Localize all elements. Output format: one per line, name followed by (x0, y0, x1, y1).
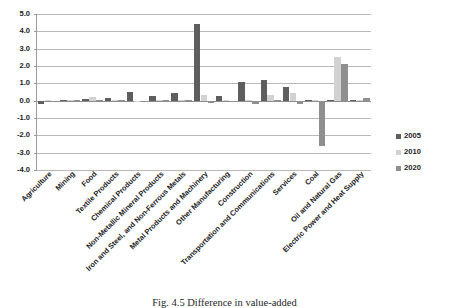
x-axis-label: Mining (54, 170, 76, 192)
legend-item: 2020 (396, 160, 448, 176)
bar (127, 92, 133, 101)
bar-group (59, 14, 81, 170)
bar (357, 100, 363, 101)
bar-group (104, 14, 126, 170)
chart-legend: 200520102020 (396, 128, 448, 176)
bar (341, 64, 347, 100)
bar-group (171, 14, 193, 170)
bar (163, 100, 169, 101)
bar (283, 87, 289, 100)
bar (156, 100, 162, 101)
bar-group (193, 14, 215, 170)
bar (89, 97, 95, 101)
legend-swatch-icon (396, 150, 401, 155)
bar (201, 95, 207, 101)
bar (290, 93, 296, 100)
legend-item: 2010 (396, 144, 448, 160)
bar (230, 101, 236, 102)
bar (38, 101, 44, 105)
bar-series-layer (37, 14, 371, 170)
bar (208, 101, 214, 103)
bar (334, 57, 340, 101)
bar (118, 100, 124, 101)
bar (319, 101, 325, 146)
bar-group (82, 14, 104, 170)
bar (297, 101, 303, 104)
bar (105, 98, 111, 101)
legend-label: 2020 (404, 164, 421, 172)
bar (261, 80, 267, 101)
legend-item: 2005 (396, 128, 448, 144)
bar (52, 101, 58, 102)
bar (216, 96, 222, 101)
legend-label: 2005 (404, 132, 421, 140)
bar-group (148, 14, 170, 170)
bar (60, 100, 66, 101)
bar (171, 93, 177, 101)
y-tick-label: 0.0 (6, 97, 30, 105)
bar (274, 100, 280, 101)
bar-group (260, 14, 282, 170)
bar (82, 99, 88, 100)
y-tick-label: -3.0 (6, 149, 30, 157)
bar-group (304, 14, 326, 170)
y-tick-label: 4.0 (6, 27, 30, 35)
bar-group (215, 14, 237, 170)
legend-swatch-icon (396, 134, 401, 139)
bar (185, 100, 191, 101)
plot-area (36, 14, 371, 170)
y-tick-label: -1.0 (6, 114, 30, 122)
bar (350, 100, 356, 101)
x-axis-label: Agriculture (20, 170, 54, 204)
bar (178, 100, 184, 101)
bar (223, 100, 229, 101)
bar (141, 101, 147, 102)
bar-group (282, 14, 304, 170)
bar (305, 100, 311, 101)
bar (327, 100, 333, 101)
y-tick-label: 1.0 (6, 79, 30, 87)
bar-group (326, 14, 348, 170)
bar (96, 100, 102, 101)
bar (134, 101, 140, 102)
y-tick-label: -2.0 (6, 131, 30, 139)
legend-label: 2010 (404, 148, 421, 156)
bar (45, 100, 51, 101)
chart-figure: 5.04.03.02.01.00.0-1.0-2.0-3.0-4.0 Agric… (0, 0, 449, 308)
chart-plot-wrapper: 5.04.03.02.01.00.0-1.0-2.0-3.0-4.0 Agric… (0, 0, 449, 308)
y-tick-label: -4.0 (6, 166, 30, 174)
bar (67, 100, 73, 101)
y-tick-label: 3.0 (6, 45, 30, 53)
bar (74, 100, 80, 101)
bar (194, 24, 200, 100)
bar-group (349, 14, 371, 170)
legend-swatch-icon (396, 166, 401, 171)
bar (252, 101, 258, 104)
x-axis-label: Coal (304, 170, 321, 187)
bar (112, 100, 118, 101)
bar (149, 96, 155, 101)
bar-group (237, 14, 259, 170)
figure-caption: Fig. 4.5 Difference in value-added (0, 297, 449, 308)
bar (245, 100, 251, 101)
bar-group (37, 14, 59, 170)
x-axis-category-labels: AgricultureMiningFoodTextile ProductsChe… (36, 170, 370, 171)
y-tick-label: 2.0 (6, 62, 30, 70)
x-axis-label: Food (80, 170, 98, 188)
bar (363, 98, 369, 100)
bar (238, 82, 244, 100)
bar (312, 100, 318, 101)
bar (267, 95, 273, 100)
y-tick-label: 5.0 (6, 10, 30, 18)
bar-group (126, 14, 148, 170)
